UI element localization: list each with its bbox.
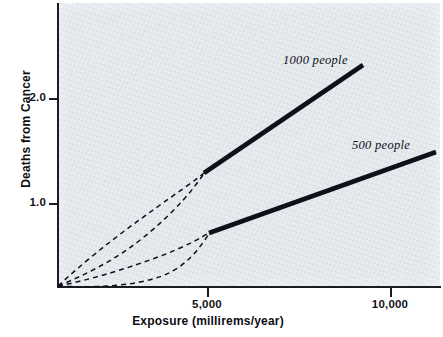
series-line-1000-people	[204, 65, 363, 173]
series-line-500-people	[209, 152, 436, 233]
chart-figure: 2.0 1.0 5,000 10,000 Deaths from Cancer …	[0, 0, 443, 337]
curve-extrapolation-linear-1000	[58, 172, 205, 286]
curve-extrapolation-supralinear-1000	[58, 172, 205, 286]
chart-graphics	[0, 0, 443, 337]
series-label-1000-people: 1000 people	[283, 53, 348, 68]
curve-extrapolation-linear-500	[58, 232, 210, 286]
curve-extrapolation-sublinear-500	[58, 232, 210, 287]
series-label-500-people: 500 people	[352, 138, 410, 153]
